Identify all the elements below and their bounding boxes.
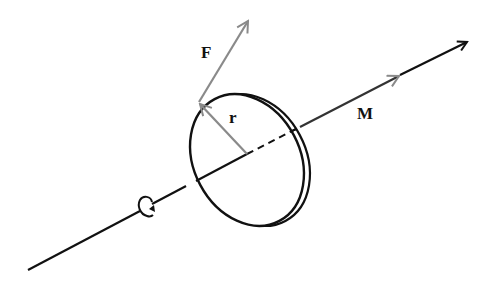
rotation-direction-symbol (139, 197, 155, 217)
radius-label: r (229, 108, 237, 127)
axis-gap-mask (186, 181, 195, 186)
rotation-axis-upper (400, 42, 467, 75)
force-label: F (201, 43, 211, 62)
torque-diagram: F r M (0, 0, 492, 284)
moment-label: M (357, 104, 373, 123)
disc-front-face (168, 74, 326, 246)
rotation-axis-lower (28, 211, 140, 270)
rotation-axis-middle (152, 185, 188, 204)
moment-vector (300, 76, 399, 127)
